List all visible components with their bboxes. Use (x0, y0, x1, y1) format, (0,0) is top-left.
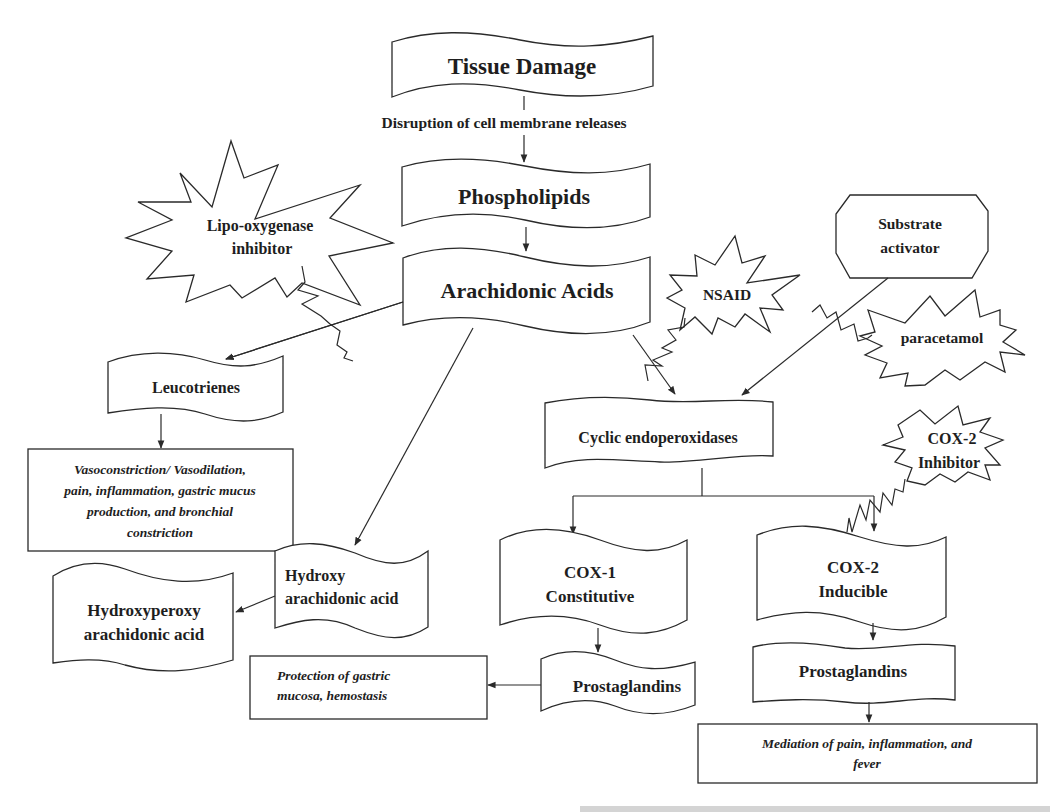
edge-arachidonic-to-hydroxy (355, 328, 473, 545)
node-phospholipids: Phospholipids (402, 159, 650, 228)
node-cyclic-endoperoxidases: Cyclic endoperoxidases (545, 397, 773, 468)
cox2-effects-line2: fever (853, 756, 881, 771)
leucotriene-effects-line1: Vasoconstriction/ Vasodilation, (74, 462, 246, 477)
node-hydroxy-arachidonic-acid: Hydroxy arachidonic acid (275, 544, 428, 638)
inhibitor-lipo-oxygenase: Lipo-oxygenase inhibitor (126, 141, 393, 361)
disruption-edge-label: Disruption of cell membrane releases (381, 114, 626, 131)
prostaglandins-cox2-label: Prostaglandins (799, 662, 908, 681)
node-prostaglandins-cox1: Prostaglandins (541, 652, 695, 714)
inhibitor-paracetamol: paracetamol (812, 290, 1025, 386)
leucotriene-effects-line2: pain, inflammation, gastric mucus (63, 483, 256, 498)
leucotrienes-label: Leucotrienes (152, 379, 240, 396)
cox2-label-line1: COX-2 (827, 558, 879, 577)
nsaid-inhibition-squiggle (645, 318, 685, 381)
edge-arachidonic-to-leucotrienes-line (226, 302, 403, 359)
prostaglandins-cox1-label: Prostaglandins (573, 677, 682, 696)
node-cox2-effects: Mediation of pain, inflammation, and fev… (698, 724, 1037, 783)
lipo-oxygenase-label-line1: Lipo-oxygenase (207, 217, 314, 235)
pathway-diagram: Tissue Damage Disruption of cell membran… (0, 0, 1058, 812)
inhibitor-nsaid: NSAID (645, 236, 800, 381)
cyclic-endoperoxidases-label: Cyclic endoperoxidases (578, 429, 737, 447)
hydroxyperoxy-label-line1: Hydroxyperoxy (87, 601, 201, 620)
node-hydroxyperoxy-arachidonic-acid: Hydroxyperoxy arachidonic acid (53, 564, 233, 671)
node-arachidonic-acids: Arachidonic Acids (403, 248, 650, 333)
paracetamol-label: paracetamol (901, 329, 984, 346)
clipped-caption (560, 803, 1058, 812)
cox1-effects-line2: mucosa, hemostasis (277, 688, 387, 703)
hydroxyperoxy-label-line2: arachidonic acid (84, 625, 205, 644)
node-tissue-damage: Tissue Damage (392, 33, 653, 97)
tissue-damage-label: Tissue Damage (448, 54, 596, 79)
arachidonic-acids-label: Arachidonic Acids (441, 278, 614, 303)
hydroxy-label-line1: Hydroxy (285, 567, 345, 585)
node-cox2: COX-2 Inducible (757, 526, 946, 630)
inhibitor-cox2: COX-2 Inhibitor (847, 406, 1003, 532)
cox2-effects-line1: Mediation of pain, inflammation, and (761, 736, 972, 751)
cox2-inhibition-squiggle (847, 479, 905, 532)
lipo-oxygenase-label-line2: inhibitor (232, 240, 292, 257)
cox2-inhibitor-line2: Inhibitor (918, 454, 980, 471)
cox2-inhibitor-line1: COX-2 (928, 430, 977, 447)
substrate-label-line2: activator (880, 239, 940, 256)
cox1-effects-line1: Protection of gastric (277, 668, 390, 683)
node-leucotrienes: Leucotrienes (108, 353, 283, 421)
phospholipids-label: Phospholipids (458, 184, 591, 209)
node-substrate-activator: Substrate activator (836, 195, 988, 278)
cox2-label-line2: Inducible (819, 582, 888, 601)
hydroxy-label-line2: arachidonic acid (285, 590, 398, 607)
node-cox1-effects: Protection of gastric mucosa, hemostasis (250, 656, 487, 719)
cox1-label-line2: Constitutive (546, 587, 635, 606)
edge-hydroxy-to-hydroxyperoxy (236, 596, 275, 612)
node-cox1: COX-1 Constitutive (500, 529, 687, 633)
node-prostaglandins-cox2: Prostaglandins (753, 643, 955, 704)
leucotriene-effects-line4: constriction (127, 525, 193, 540)
substrate-label-line1: Substrate (878, 215, 942, 232)
leucotriene-effects-line3: production, and bronchial (86, 504, 233, 519)
node-leucotriene-effects: Vasoconstriction/ Vasodilation, pain, in… (28, 449, 293, 551)
cox1-label-line1: COX-1 (564, 563, 616, 582)
nsaid-label: NSAID (703, 286, 751, 303)
